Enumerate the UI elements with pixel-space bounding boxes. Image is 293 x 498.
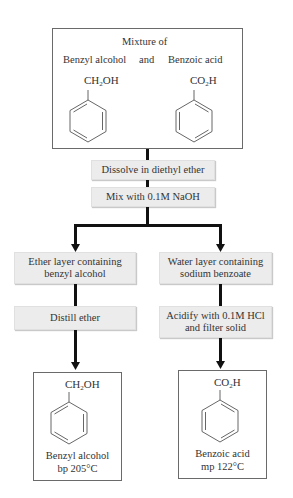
connector-line — [74, 284, 77, 306]
product-boiling-point: bp 205°C — [33, 463, 122, 475]
layer-label-line2: sodium benzoate — [180, 268, 251, 280]
step-label: Distill ether — [50, 312, 100, 324]
water-layer-box: Water layer containing sodium benzoate — [159, 252, 272, 284]
connector-line — [146, 149, 149, 160]
branch-line — [74, 224, 222, 227]
connector-line — [74, 224, 77, 246]
layer-label-line1: Water layer containing — [168, 256, 263, 268]
step-label-line2: and filter solid — [185, 322, 246, 334]
product-melting-point: mp 122°C — [178, 461, 267, 473]
benzoic-acid-formula: CO2H — [190, 74, 217, 88]
layer-label-line2: benzyl alcohol — [44, 268, 106, 280]
arrow-down-icon — [216, 244, 225, 252]
layer-label-line1: Ether layer containing — [28, 256, 121, 268]
product-name-benzyl-alcohol: Benzyl alcohol — [33, 450, 122, 462]
benzene-ring-icon — [68, 88, 108, 144]
connector-line — [146, 180, 149, 187]
connector-line — [219, 284, 222, 306]
step-label: Dissolve in diethyl ether — [102, 164, 205, 176]
product-name-benzoic-acid: Benzoic acid — [178, 448, 267, 460]
step-label-line1: Acidify with 0.1M HCl — [166, 310, 265, 322]
arrow-down-icon — [216, 361, 225, 369]
benzyl-alcohol-formula: CH2OH — [84, 74, 119, 88]
ether-layer-box: Ether layer containing benzyl alcohol — [14, 252, 136, 284]
connector-line — [219, 338, 222, 363]
arrow-down-icon — [71, 362, 80, 370]
conjunction-label: and — [139, 54, 154, 66]
connector-line — [74, 330, 77, 364]
step-mix-with-naoh: Mix with 0.1M NaOH — [91, 187, 215, 207]
connector-line — [219, 224, 222, 246]
step-distill-ether: Distill ether — [14, 306, 136, 330]
left-compound-label: Benzyl alcohol — [63, 54, 126, 66]
benzene-ring-icon — [174, 88, 214, 144]
step-acidify-and-filter: Acidify with 0.1M HCl and filter solid — [159, 306, 272, 338]
arrow-down-icon — [71, 244, 80, 252]
right-compound-label: Benzoic acid — [168, 54, 223, 66]
mixture-heading: Mixture of — [122, 36, 167, 48]
step-dissolve-in-ether: Dissolve in diethyl ether — [91, 160, 215, 180]
benzene-ring-icon — [49, 390, 89, 446]
step-label: Mix with 0.1M NaOH — [106, 191, 200, 203]
benzene-ring-icon — [200, 388, 240, 444]
